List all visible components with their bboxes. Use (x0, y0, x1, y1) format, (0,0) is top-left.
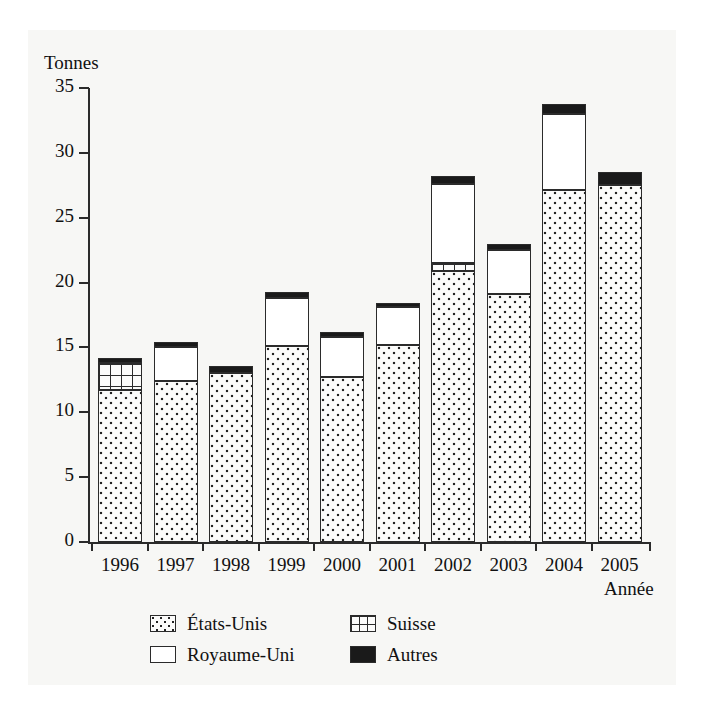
bar-2002[interactable] (431, 176, 475, 542)
legend-row: Royaume-UniAutres (150, 639, 550, 670)
plot-area: 05101520253035 1996199719981999200020012… (88, 88, 648, 542)
bar-segment-1999-royaume-uni[interactable] (265, 298, 309, 346)
x-tick-label-1999: 1999 (257, 554, 317, 576)
bar-segment-1998-autres[interactable] (209, 366, 253, 374)
x-axis-label: Année (604, 578, 654, 600)
y-axis-line (88, 88, 90, 542)
bar-segment-1999-autres[interactable] (265, 292, 309, 298)
x-tick-label-2001: 2001 (368, 554, 428, 576)
x-tick-1996 (91, 542, 93, 551)
bar-segment-2003-etats-unis[interactable] (487, 294, 531, 542)
y-axis-label: Tonnes (44, 52, 99, 74)
y-tick-25 (79, 217, 89, 219)
legend-item-autres[interactable]: Autres (350, 644, 550, 666)
bar-2003[interactable] (487, 244, 531, 542)
x-tick-1999 (258, 542, 260, 551)
legend-row: États-UnisSuisse (150, 608, 550, 639)
bar-segment-1999-etats-unis[interactable] (265, 346, 309, 542)
legend-swatch-suisse-icon (350, 615, 376, 632)
legend-swatch-autres-icon (350, 646, 376, 663)
bar-segment-2003-autres[interactable] (487, 244, 531, 250)
x-tick-2000 (313, 542, 315, 551)
bar-segment-2000-etats-unis[interactable] (320, 377, 364, 542)
legend-item-etats-unis[interactable]: États-Unis (150, 613, 350, 635)
y-tick-label-25: 25 (32, 205, 74, 227)
chart-page: 1996-2005 Tonnes Année 05101520253035 19… (0, 0, 704, 702)
legend-swatch-royaume-uni-icon (150, 646, 176, 663)
x-tick-label-2004: 2004 (534, 554, 594, 576)
x-tick-end (649, 542, 651, 551)
bar-2001[interactable] (376, 303, 420, 542)
bar-segment-2005-etats-unis[interactable] (598, 185, 642, 542)
x-tick-label-2005: 2005 (590, 554, 650, 576)
legend-label-royaume-uni: Royaume-Uni (187, 644, 295, 666)
y-tick-35 (79, 87, 89, 89)
bar-segment-1997-etats-unis[interactable] (154, 381, 198, 542)
y-tick-20 (79, 282, 89, 284)
bar-segment-1996-etats-unis[interactable] (98, 390, 142, 542)
bar-segment-1997-royaume-uni[interactable] (154, 347, 198, 381)
bar-segment-2001-royaume-uni[interactable] (376, 307, 420, 345)
y-tick-label-20: 20 (32, 270, 74, 292)
x-tick-label-2003: 2003 (479, 554, 539, 576)
bar-segment-2002-etats-unis[interactable] (431, 271, 475, 542)
y-tick-10 (79, 411, 89, 413)
bar-segment-2001-etats-unis[interactable] (376, 345, 420, 542)
chart-legend: États-UnisSuisseRoyaume-UniAutres (150, 608, 550, 670)
y-tick-label-0: 0 (32, 529, 74, 551)
bar-segment-2003-royaume-uni[interactable] (487, 250, 531, 294)
bar-segment-1998-etats-unis[interactable] (209, 373, 253, 542)
bar-1999[interactable] (265, 292, 309, 542)
y-tick-15 (79, 346, 89, 348)
y-tick-label-15: 15 (32, 334, 74, 356)
legend-label-autres: Autres (387, 644, 438, 666)
bar-1996[interactable] (98, 358, 142, 542)
x-tick-2001 (369, 542, 371, 551)
bar-2005[interactable] (598, 172, 642, 542)
x-tick-label-2002: 2002 (423, 554, 483, 576)
x-tick-1997 (147, 542, 149, 551)
bar-segment-2002-autres[interactable] (431, 176, 475, 184)
bar-2004[interactable] (542, 104, 586, 542)
bar-segment-2004-royaume-uni[interactable] (542, 114, 586, 191)
bar-segment-2002-suisse[interactable] (431, 263, 475, 271)
legend-item-royaume-uni[interactable]: Royaume-Uni (150, 644, 350, 666)
x-tick-2002 (424, 542, 426, 551)
bar-segment-2001-autres[interactable] (376, 303, 420, 307)
x-tick-2004 (535, 542, 537, 551)
bar-segment-2000-autres[interactable] (320, 332, 364, 337)
legend-swatch-etats-unis-icon (150, 615, 176, 632)
x-tick-1998 (202, 542, 204, 551)
bar-segment-1996-suisse[interactable] (98, 363, 142, 390)
y-tick-0 (79, 541, 89, 543)
bar-segment-2004-etats-unis[interactable] (542, 190, 586, 542)
y-tick-5 (79, 476, 89, 478)
x-tick-2003 (480, 542, 482, 551)
bar-segment-1997-autres[interactable] (154, 342, 198, 347)
x-tick-label-1997: 1997 (146, 554, 206, 576)
bar-segment-2005-autres[interactable] (598, 172, 642, 185)
bar-segment-2002-royaume-uni[interactable] (431, 184, 475, 263)
x-tick-label-1996: 1996 (90, 554, 150, 576)
bar-segment-1996-autres[interactable] (98, 358, 142, 363)
x-tick-2005 (591, 542, 593, 551)
y-tick-label-10: 10 (32, 399, 74, 421)
bar-segment-2000-royaume-uni[interactable] (320, 337, 364, 377)
bar-segment-2004-autres[interactable] (542, 104, 586, 114)
bar-2000[interactable] (320, 332, 364, 542)
y-tick-30 (79, 152, 89, 154)
y-tick-label-35: 35 (32, 75, 74, 97)
x-tick-label-2000: 2000 (312, 554, 372, 576)
y-tick-label-30: 30 (32, 140, 74, 162)
legend-label-etats-unis: États-Unis (187, 613, 267, 635)
bar-1998[interactable] (209, 366, 253, 542)
bar-1997[interactable] (154, 342, 198, 542)
x-tick-label-1998: 1998 (201, 554, 261, 576)
legend-label-suisse: Suisse (387, 613, 436, 635)
y-tick-label-5: 5 (32, 464, 74, 486)
legend-item-suisse[interactable]: Suisse (350, 613, 550, 635)
